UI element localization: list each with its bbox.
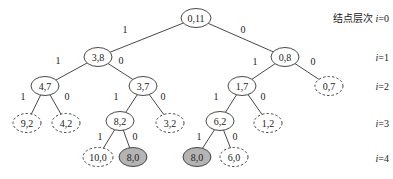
tree-node: 3,2 [156,114,184,133]
edge-label: 0 [65,91,70,102]
tree-node: 0,8 [271,48,299,67]
tree-node: 0,11 [181,9,211,28]
edge-label: 1 [123,24,128,35]
tree-node: 3,7 [129,77,157,96]
edge-label: 0 [311,56,316,67]
node-label: 9,2 [21,118,34,129]
node-label: 1,7 [236,81,249,92]
tree-node: 6,0 [220,148,248,167]
node-label: 8,0 [191,152,204,163]
node-label: 4,2 [60,118,73,129]
level-label: 结点层次 i=0 [333,12,389,24]
tree-node: 1,7 [228,77,256,96]
level-label: i=3 [376,118,389,129]
edge-label: 0 [161,91,166,102]
tree-node: 6,2 [206,112,234,131]
tree-node: 8,0 [183,148,211,167]
node-label: 8,2 [114,116,127,127]
tree-node: 0,7 [315,77,343,96]
level-label: i=2 [376,81,389,92]
tree-edge [98,18,196,57]
node-label: 8,0 [127,152,140,163]
node-label: 3,7 [137,81,150,92]
node-label: 0,8 [279,52,292,63]
node-label: 0,11 [187,13,204,24]
edge-label: 1 [197,131,202,142]
tree-node: 10,0 [83,148,113,167]
node-label: 3,8 [92,52,105,63]
node-label: 3,2 [164,118,177,129]
tree-node: 4,2 [52,114,80,133]
node-label: 6,0 [228,152,241,163]
tree-node: 3,8 [84,48,112,67]
node-label: 4,7 [39,81,52,92]
tree-node: 8,2 [106,112,134,131]
node-label: 10,0 [89,152,107,163]
edge-label: 1 [21,91,26,102]
node-label: 0,7 [323,81,336,92]
tree-node: 4,7 [31,77,59,96]
edge-label: 0 [261,91,266,102]
edge-label: 1 [214,91,219,102]
tree-diagram: 1010101010101010 0,113,80,84,73,71,70,79… [0,0,393,179]
tree-node: 1,2 [254,114,282,133]
edge-label: 0 [119,55,124,66]
tree-node: 9,2 [13,114,41,133]
tree-node: 8,0 [119,148,147,167]
edge-label: 1 [56,55,61,66]
edge-label: 0 [133,131,138,142]
level-label: i=4 [376,153,389,164]
edges-layer [27,18,329,157]
edge-label: 1 [253,56,258,67]
node-label: 1,2 [262,118,275,129]
edge-label: 1 [98,131,103,142]
node-label: 6,2 [214,116,227,127]
edge-label: 0 [241,24,246,35]
level-label: i=1 [376,52,389,63]
edge-label: 0 [233,131,238,142]
edge-label: 1 [114,91,119,102]
nodes-layer: 0,113,80,84,73,71,70,79,24,28,23,26,21,2… [13,9,343,167]
